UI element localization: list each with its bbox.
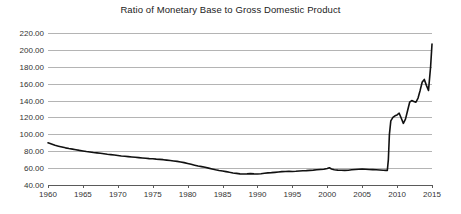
x-axis-tick-label: 2000 bbox=[318, 190, 336, 199]
x-axis-tick-label: 1985 bbox=[214, 190, 232, 199]
x-axis-tick bbox=[188, 185, 189, 188]
x-axis-tick-label: 1980 bbox=[179, 190, 197, 199]
y-axis-tick-label: 180.00 bbox=[20, 62, 44, 71]
x-axis-tick bbox=[397, 185, 398, 188]
y-axis-tick-label: 120.00 bbox=[20, 113, 44, 122]
x-axis-tick bbox=[432, 185, 433, 188]
x-axis-line bbox=[48, 185, 432, 186]
x-axis-tick bbox=[118, 185, 119, 188]
x-axis-tick-label: 1960 bbox=[39, 190, 57, 199]
x-axis-tick-label: 2005 bbox=[353, 190, 371, 199]
y-axis-labels: 220.00200.00180.00160.00140.00120.00100.… bbox=[0, 33, 44, 185]
x-axis-tick-label: 1990 bbox=[249, 190, 267, 199]
y-axis-tick-label: 80.00 bbox=[24, 147, 44, 156]
x-axis-tick-label: 1995 bbox=[283, 190, 301, 199]
y-axis-tick-label: 220.00 bbox=[20, 29, 44, 38]
x-axis-tick bbox=[362, 185, 363, 188]
chart-title: Ratio of Monetary Base to Gross Domestic… bbox=[0, 4, 461, 15]
x-axis-tick-label: 1975 bbox=[144, 190, 162, 199]
y-axis-tick-label: 200.00 bbox=[20, 45, 44, 54]
y-axis-tick-label: 160.00 bbox=[20, 79, 44, 88]
x-axis-tick-label: 2015 bbox=[423, 190, 441, 199]
x-axis-tick bbox=[83, 185, 84, 188]
y-axis-tick-label: 140.00 bbox=[20, 96, 44, 105]
y-axis-tick-label: 60.00 bbox=[24, 164, 44, 173]
plot-area bbox=[48, 33, 432, 185]
x-axis-tick-label: 1965 bbox=[74, 190, 92, 199]
x-axis-tick bbox=[223, 185, 224, 188]
x-axis-tick bbox=[48, 185, 49, 188]
y-axis-tick-label: 100.00 bbox=[20, 130, 44, 139]
series-polyline bbox=[48, 44, 432, 174]
chart-container: Ratio of Monetary Base to Gross Domestic… bbox=[0, 0, 461, 214]
x-axis-tick-label: 2010 bbox=[388, 190, 406, 199]
y-axis-tick-label: 40.00 bbox=[24, 181, 44, 190]
x-axis-tick bbox=[292, 185, 293, 188]
x-axis-tick bbox=[153, 185, 154, 188]
data-series-line bbox=[48, 33, 432, 185]
x-axis-tick-label: 1970 bbox=[109, 190, 127, 199]
x-axis-tick bbox=[257, 185, 258, 188]
x-axis-tick bbox=[327, 185, 328, 188]
